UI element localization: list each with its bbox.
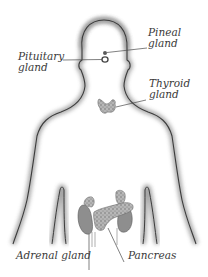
pituitary-gland-label: Pituitary gland <box>18 51 64 73</box>
pancreas-leader-line <box>108 228 124 262</box>
pineal-gland-marker <box>103 51 107 55</box>
kidneys-adrenal-pancreas <box>78 190 133 247</box>
pituitary-leader-line <box>63 60 102 61</box>
pancreas-label: Pancreas <box>128 250 176 261</box>
thyroid-gland-label: Thyroid gland <box>149 78 190 100</box>
thyroid-gland <box>98 99 115 113</box>
endocrine-diagram: Pineal gland Pituitary gland Thyroid gla… <box>0 0 208 277</box>
pituitary-gland-marker <box>102 57 108 62</box>
adrenal-gland-label: Adrenal gland <box>16 250 91 261</box>
pineal-gland-label: Pineal gland <box>148 27 181 49</box>
